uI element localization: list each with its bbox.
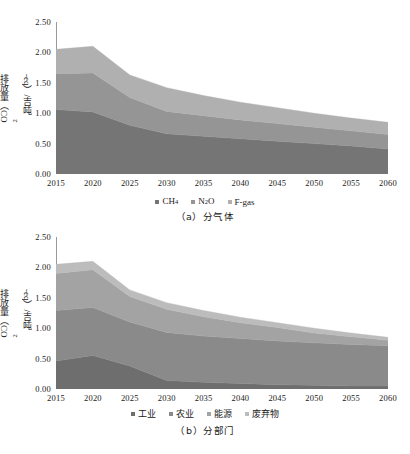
x-tick-a-5: 2040 (231, 179, 249, 188)
panel-a: 排放量（CO2-eq）/吉吨 0.00 0.50 1.00 1.50 2.00 … (0, 0, 410, 227)
x-tick-b-0: 2015 (47, 394, 65, 403)
y-tick-b-1: 0.50 (35, 354, 51, 363)
x-tick-a-9: 2060 (379, 179, 397, 188)
legend-b-label-1: 农业 (176, 409, 194, 419)
y-axis-title-b-post: -eq）/吉吨 (21, 289, 32, 338)
x-tick-b-8: 2055 (342, 394, 360, 403)
x-tick-a-2: 2025 (121, 179, 139, 188)
y-tick-b-4: 2.00 (35, 263, 51, 272)
x-tick-a-4: 2035 (195, 179, 213, 188)
stacked-area-svg-b (56, 237, 388, 389)
legend-a: CH4N2OF-gas (0, 196, 410, 207)
stacked-area-svg-a (56, 22, 388, 174)
x-tick-b-4: 2035 (195, 394, 213, 403)
y-tick-a-4: 2.00 (35, 48, 51, 57)
legend-b-item-2[interactable]: 能源 (207, 409, 232, 419)
x-tick-a-0: 2015 (47, 179, 65, 188)
x-tick-a-8: 2055 (342, 179, 360, 188)
legend-swatch-icon (131, 412, 135, 416)
caption-a: （a）分气体 (0, 209, 410, 223)
legend-a-label-2: F-gas (235, 197, 255, 207)
panel-b: 排放量（CO2-eq）/吉吨 0.00 0.50 1.00 1.50 2.00 … (0, 227, 410, 454)
y-axis-title-a-post: -eq）/吉吨 (21, 74, 32, 123)
legend-a-item-0[interactable]: CH4 (155, 196, 178, 207)
y-tick-a-5: 2.50 (35, 18, 51, 27)
legend-swatch-icon (169, 412, 173, 416)
y-tick-b-5: 2.50 (35, 233, 51, 242)
y-axis-title-a-pre: 排放量（CO (0, 74, 9, 123)
legend-b-item-3[interactable]: 废弃物 (245, 409, 279, 419)
y-axis-title-a: 排放量（CO2-eq）/吉吨 (8, 22, 22, 174)
x-tick-b-6: 2045 (268, 394, 286, 403)
legend-b: 工业农业能源废弃物 (0, 409, 410, 419)
legend-b-label-3: 废弃物 (252, 409, 279, 419)
plot-area-a: 0.00 0.50 1.00 1.50 2.00 2.50 2015 2020 … (56, 22, 388, 174)
plot-area-b: 0.00 0.50 1.00 1.50 2.00 2.50 2015 2020 … (56, 237, 388, 389)
x-tick-b-1: 2020 (84, 394, 102, 403)
legend-swatch-icon (191, 200, 195, 204)
legend-b-item-0[interactable]: 工业 (131, 409, 156, 419)
y-axis-title-b-sub: 2 (11, 334, 18, 337)
y-axis-title-b-pre: 排放量（CO (0, 289, 9, 338)
legend-swatch-icon (245, 412, 249, 416)
x-tick-b-5: 2040 (231, 394, 249, 403)
y-axis-title-a-sub: 2 (11, 119, 18, 122)
y-tick-a-1: 0.50 (35, 139, 51, 148)
x-tick-a-6: 2045 (268, 179, 286, 188)
legend-swatch-icon (228, 200, 232, 204)
y-tick-a-2: 1.00 (35, 109, 51, 118)
legend-swatch-icon (155, 200, 159, 204)
legend-b-label-2: 能源 (214, 409, 232, 419)
caption-b: （b）分部门 (0, 423, 410, 437)
y-axis-title-b: 排放量（CO2-eq）/吉吨 (8, 237, 22, 389)
legend-a-item-1[interactable]: N2O (191, 196, 214, 207)
y-tick-b-0: 0.00 (35, 385, 51, 394)
y-tick-a-3: 1.50 (35, 79, 51, 88)
legend-swatch-icon (207, 412, 211, 416)
x-tick-b-7: 2050 (305, 394, 323, 403)
y-tick-b-3: 1.50 (35, 294, 51, 303)
stacked-area-figure: 排放量（CO2-eq）/吉吨 0.00 0.50 1.00 1.50 2.00 … (0, 0, 410, 454)
y-tick-b-2: 1.00 (35, 324, 51, 333)
legend-b-item-1[interactable]: 农业 (169, 409, 194, 419)
x-tick-b-2: 2025 (121, 394, 139, 403)
legend-a-item-2[interactable]: F-gas (228, 197, 255, 207)
x-tick-b-9: 2060 (379, 394, 397, 403)
x-tick-b-3: 2030 (158, 394, 176, 403)
x-tick-a-7: 2050 (305, 179, 323, 188)
legend-b-label-0: 工业 (138, 409, 156, 419)
y-tick-a-0: 0.00 (35, 170, 51, 179)
x-tick-a-3: 2030 (158, 179, 176, 188)
x-tick-a-1: 2020 (84, 179, 102, 188)
legend-a-label-0: CH4 (162, 196, 178, 207)
legend-a-label-1: N2O (198, 196, 214, 207)
